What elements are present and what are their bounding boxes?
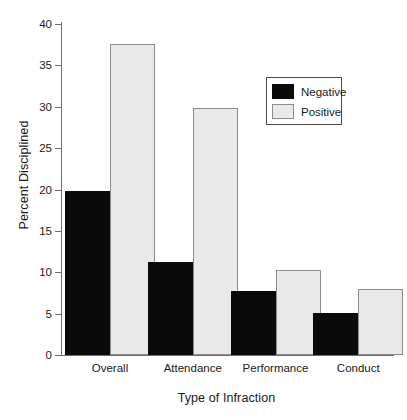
y-tick-label: 0 [15, 349, 61, 361]
bar-overall-negative [65, 191, 110, 355]
y-tick-label: 25 [15, 142, 61, 154]
legend-item-positive[interactable]: Positive [272, 103, 341, 120]
y-tick-label: 15 [15, 225, 61, 237]
y-tick-label: 20 [15, 184, 61, 196]
legend-label-negative: Negative [301, 86, 346, 98]
y-tick-label: 5 [15, 308, 61, 320]
bar-performance-negative [231, 291, 276, 355]
plot-area [61, 24, 392, 355]
legend-item-negative[interactable]: Negative [272, 83, 346, 100]
legend-swatch-negative [272, 84, 294, 99]
x-axis-title: Type of Infraction [61, 391, 392, 405]
y-tick-label: 35 [15, 59, 61, 71]
y-tick-label: 40 [15, 18, 61, 30]
y-tick-label: 10 [15, 266, 61, 278]
y-tick-label: 30 [15, 101, 61, 113]
legend-label-positive: Positive [301, 106, 341, 118]
x-category-label-conduct: Conduct [298, 362, 407, 374]
legend-swatch-positive [272, 104, 294, 119]
bar-conduct-negative [313, 313, 358, 355]
bar-attendance-negative [148, 262, 193, 355]
x-axis-line [61, 355, 394, 356]
bar-conduct-positive [358, 289, 403, 355]
chart-legend: NegativePositive [266, 77, 342, 125]
y-axis-ticks: 0510152025303540 [0, 0, 61, 420]
